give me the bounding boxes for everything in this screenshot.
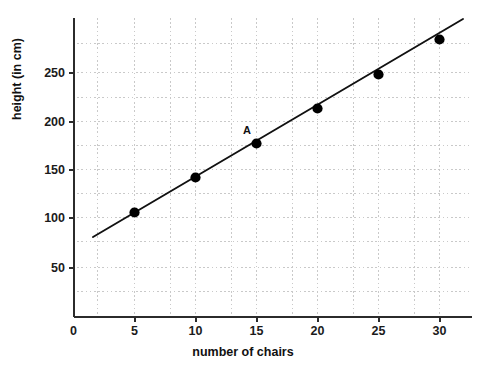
data-point xyxy=(312,103,322,113)
y-tick-label-200: 200 xyxy=(38,115,65,129)
data-point xyxy=(434,34,444,44)
data-point xyxy=(373,69,383,79)
y-tick-label-150: 150 xyxy=(38,163,65,177)
x-tick-label-0: 0 xyxy=(70,324,77,338)
x-tick-label-10: 10 xyxy=(189,324,203,338)
trend-line xyxy=(93,19,463,237)
axis-spines xyxy=(74,18,472,317)
gridlines-horizontal xyxy=(73,44,472,292)
data-point xyxy=(129,207,139,217)
data-point xyxy=(190,172,200,182)
x-tick-label-15: 15 xyxy=(250,324,264,338)
x-tick-label-30: 30 xyxy=(433,324,447,338)
y-tick-label-50: 50 xyxy=(38,261,65,275)
y-tick-label-250: 250 xyxy=(38,66,65,80)
data-point xyxy=(251,138,261,148)
x-tick-label-20: 20 xyxy=(311,324,325,338)
y-axis-title: height (in cm) xyxy=(10,38,24,120)
point-a-annotation: A xyxy=(243,124,251,136)
plot-canvas xyxy=(0,0,486,373)
x-axis-title: number of chairs xyxy=(0,345,486,359)
data-points xyxy=(129,34,444,217)
chart-figure: 250 200 150 100 50 0 5 10 15 20 25 30 A … xyxy=(0,0,486,373)
x-tick-label-25: 25 xyxy=(372,324,386,338)
x-tick-label-5: 5 xyxy=(131,324,138,338)
y-tick-label-100: 100 xyxy=(38,211,65,225)
